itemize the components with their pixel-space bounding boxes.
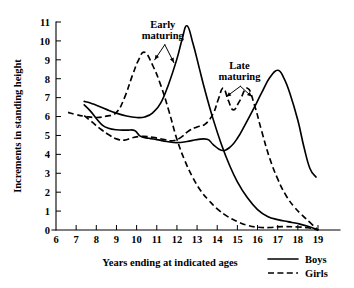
x-axis-tick-label: 12 (172, 234, 183, 245)
y-axis-tick-label: 11 (40, 17, 50, 28)
x-axis-tick-label: 16 (252, 234, 263, 245)
annotation-early-maturing: Earlymaturing (142, 19, 185, 41)
x-axis-tick-label: 13 (192, 234, 203, 245)
chart-tick-labels: 67891011121314151617181901234567891011 (40, 17, 324, 245)
y-axis-tick-label: 1 (45, 206, 50, 217)
x-axis-tick-label: 10 (131, 234, 142, 245)
y-axis-tick-label: 7 (45, 92, 50, 103)
y-axis-tick-label: 8 (45, 74, 50, 85)
series-curve-early-maturing-boys (84, 26, 318, 230)
x-axis-tick-label: 14 (212, 234, 223, 245)
y-axis-tick-label: 3 (45, 168, 50, 179)
x-axis-tick-label: 7 (74, 234, 79, 245)
y-axis-tick-label: 4 (45, 149, 51, 160)
x-axis-tick-label: 15 (232, 234, 243, 245)
x-axis-tick-label: 17 (272, 234, 283, 245)
x-axis-title-text: Years ending at indicated ages (102, 257, 237, 268)
annotation-line2: maturing (142, 30, 185, 41)
annotation-line1: Late (229, 60, 250, 71)
x-axis-tick-label: 19 (313, 234, 324, 245)
chart-legend: Boys Girls (268, 254, 328, 279)
chart-svg: 67891011121314151617181901234567891011 E… (0, 0, 354, 288)
series-curve-late-maturing-girls (84, 88, 318, 230)
chart-series-curves (68, 26, 318, 230)
annotation-line2: maturing (218, 71, 261, 82)
y-axis-title-text: Increments in standing height (12, 59, 23, 193)
legend-entry-girls: Girls (268, 268, 328, 279)
early-girls-arrowhead (155, 55, 159, 60)
x-axis-tick-label: 8 (94, 234, 99, 245)
x-axis-tick-label: 18 (293, 234, 304, 245)
y-axis-tick-label: 2 (45, 187, 50, 198)
x-axis-title: Years ending at indicated ages (102, 257, 237, 268)
annotation-line1: Early (150, 19, 176, 30)
x-axis-tick-label: 9 (114, 234, 119, 245)
y-axis-tick-label: 5 (45, 130, 50, 141)
legend-label-boys: Boys (305, 254, 327, 265)
growth-velocity-chart: 67891011121314151617181901234567891011 E… (0, 0, 354, 288)
legend-entry-boys: Boys (268, 254, 327, 265)
y-axis-tick-label: 9 (45, 55, 50, 66)
y-axis-tick-label: 10 (40, 36, 51, 47)
y-axis-tick-label: 0 (45, 225, 50, 236)
y-axis-title: Increments in standing height (12, 59, 23, 193)
series-curve-late-maturing-boys (84, 70, 316, 177)
y-axis-tick-label: 6 (45, 111, 50, 122)
chart-annotations: EarlymaturingLatematuring (142, 19, 261, 97)
annotation-late-maturing: Latematuring (218, 60, 261, 82)
x-axis-tick-label: 6 (53, 234, 58, 245)
x-axis-tick-label: 11 (152, 234, 162, 245)
legend-label-girls: Girls (305, 268, 328, 279)
